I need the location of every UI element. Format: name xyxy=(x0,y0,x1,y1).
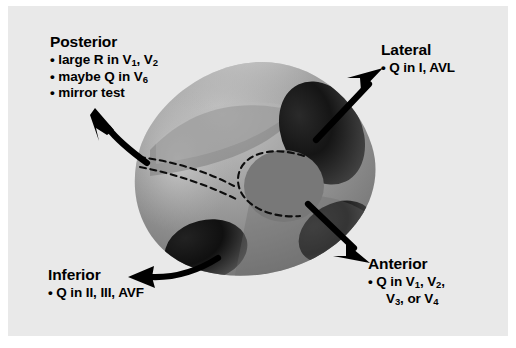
posterior-bullet-2: • maybe Q in V6 xyxy=(50,69,158,86)
posterior-bullet-3: • mirror test xyxy=(50,85,158,100)
posterior-arrow xyxy=(90,108,147,163)
label-lateral: Lateral • Q in I, AVL xyxy=(381,41,455,75)
inferior-bullet-1: • Q in II, III, AVF xyxy=(48,285,144,300)
lateral-bullet-1: • Q in I, AVL xyxy=(381,60,455,75)
posterior-bullet-1: • large R in V1, V2 xyxy=(50,52,158,69)
anterior-bullet-1: • Q in V1, V2, xyxy=(368,274,445,291)
label-anterior: Anterior • Q in V1, V2, V3, or V4 xyxy=(368,255,445,307)
heart-infarct-localization-figure: Posterior • large R in V1, V2 • maybe Q … xyxy=(0,0,516,348)
label-posterior: Posterior • large R in V1, V2 • maybe Q … xyxy=(50,33,158,101)
posterior-heading: Posterior xyxy=(50,33,158,51)
lateral-heading: Lateral xyxy=(381,41,455,59)
inferior-heading: Inferior xyxy=(48,266,144,284)
heart-body-group xyxy=(120,34,386,300)
anterior-bullet-1-cont: V3, or V4 xyxy=(368,291,445,308)
anterior-heading: Anterior xyxy=(368,255,445,273)
label-inferior: Inferior • Q in II, III, AVF xyxy=(48,266,144,300)
